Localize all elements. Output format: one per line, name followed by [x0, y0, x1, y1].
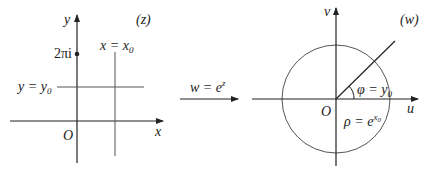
- z-origin-label: O: [63, 128, 73, 143]
- w-origin-label: O: [321, 104, 331, 119]
- radius-label: ρ = ex0: [343, 112, 381, 129]
- z-x-axis-label: x: [154, 124, 162, 139]
- angle-arc: [349, 86, 354, 99]
- angle-label: φ = y0: [357, 82, 392, 99]
- vertical-line-label: x = x0: [99, 38, 134, 55]
- w-v-axis-label: v: [324, 4, 331, 19]
- w-plane: v (w) φ = y0 O ρ = ex0 u: [252, 4, 419, 166]
- w-plane-label: (w): [400, 12, 419, 28]
- point-2pii-label: 2πi: [54, 46, 72, 61]
- conformal-map-diagram: y (z) 2πi x = x0 y = y0 O x w = ez v (w)…: [0, 0, 426, 174]
- mapping-label: w = ez: [190, 78, 226, 95]
- mapping-arrow: w = ez: [180, 78, 238, 99]
- horizontal-line-label: y = y0: [16, 79, 52, 96]
- w-u-axis-label: u: [407, 101, 414, 116]
- z-plane: y (z) 2πi x = x0 y = y0 O x: [10, 12, 163, 163]
- z-y-axis-label: y: [62, 12, 71, 27]
- point-2pii: [75, 52, 80, 57]
- z-plane-label: (z): [136, 12, 151, 28]
